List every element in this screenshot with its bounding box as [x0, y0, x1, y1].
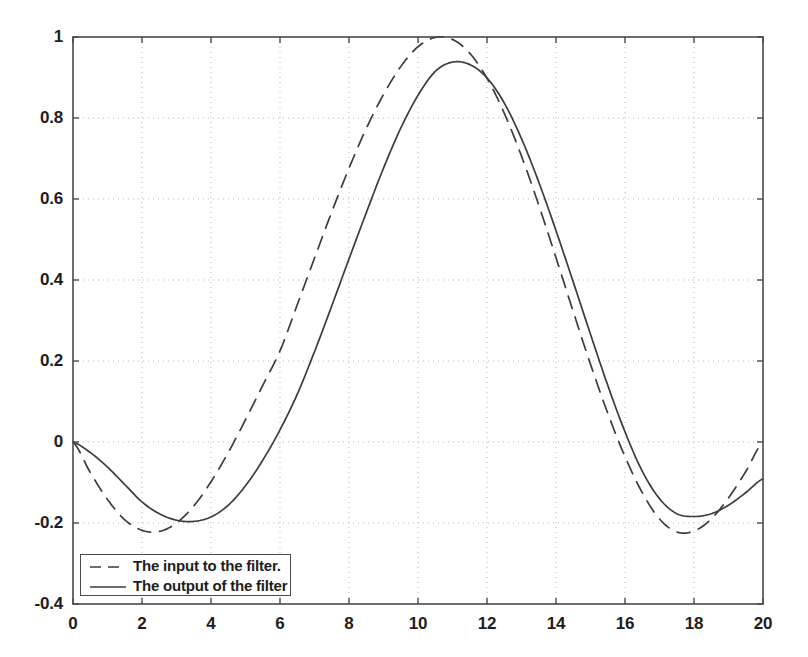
x-tick-label: 0 [68, 614, 77, 634]
series-curve-input [73, 37, 763, 533]
legend-dashed-line-sample [89, 565, 127, 566]
legend-solid-line-sample [89, 585, 127, 586]
y-tick-label: -0.4 [0, 594, 63, 614]
y-tick-label: 1 [0, 27, 63, 47]
y-tick-label: 0.2 [0, 351, 63, 371]
x-tick-label: 8 [344, 614, 353, 634]
y-tick-label: 0 [0, 432, 63, 452]
x-tick-label: 6 [275, 614, 284, 634]
x-tick-label: 20 [754, 614, 773, 634]
x-tick-label: 2 [137, 614, 146, 634]
x-tick-label: 4 [206, 614, 215, 634]
legend-entry-output: The output of the filter [81, 575, 290, 596]
legend-label-output: The output of the filter [133, 577, 287, 594]
y-tick-label: 0.6 [0, 189, 63, 209]
x-tick-label: 12 [478, 614, 497, 634]
x-tick-label: 16 [616, 614, 635, 634]
legend-entry-input: The input to the filter. [81, 555, 290, 576]
y-tick-label: 0.4 [0, 270, 63, 290]
x-tick-label: 10 [409, 614, 428, 634]
x-tick-label: 14 [547, 614, 566, 634]
data-curves-group [73, 37, 763, 533]
y-tick-label: 0.8 [0, 108, 63, 128]
chart-legend: The input to the filter. The output of t… [80, 554, 291, 596]
legend-label-input: The input to the filter. [133, 557, 281, 574]
figure-canvas: -0.4-0.200.20.40.60.81 02468101214161820… [0, 0, 808, 657]
x-tick-label: 18 [685, 614, 704, 634]
y-tick-label: -0.2 [0, 513, 63, 533]
